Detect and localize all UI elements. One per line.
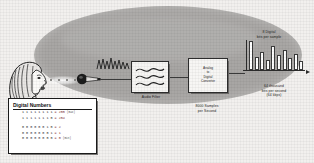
chart-bar (260, 52, 264, 70)
audio-filter-label: Audio Filter (131, 95, 171, 99)
wire-filter-to-adc (170, 77, 188, 78)
decimal-value: = 1 (55, 131, 61, 135)
binary-bits: 1 1 1 1 1 1 1 0 (22, 116, 55, 120)
digital-numbers-rows-bottom: 0 0 0 0 0 0 1 0 = 2 0 0 0 0 0 0 0 1 = 1 … (9, 125, 96, 142)
chart-bar (266, 60, 270, 70)
sound-wave-icon (96, 56, 130, 72)
analog-to-digital-converter-box: Analog to Digital Converter (188, 58, 228, 93)
digital-number-row: 0 0 0 0 0 0 0 0 = 0 (min) (9, 136, 96, 142)
decimal-value: = 255 (55, 110, 67, 114)
chart-bar (283, 50, 287, 70)
ellipse-highlight (60, 16, 260, 62)
value-note: (max) (67, 111, 75, 114)
chart-bar (288, 58, 292, 70)
diagram-canvas: Audio Filter Analog to Digital Converter… (0, 0, 314, 163)
chart-bar (271, 46, 275, 70)
chart-bar (299, 61, 303, 70)
sound-emission (46, 76, 80, 85)
value-note: (min) (63, 137, 71, 140)
decimal-value: = 2 (55, 125, 61, 129)
sampling-rate-line2: per Second (184, 109, 230, 113)
chart-bar (255, 57, 259, 70)
binary-bits: 0 0 0 0 0 0 0 0 (22, 136, 55, 140)
digital-bitstream-chart (243, 40, 309, 78)
decimal-value: = 254 (55, 116, 65, 120)
binary-bits: 0 0 0 0 0 0 1 0 (22, 125, 55, 129)
chart-y-axis (246, 40, 247, 71)
digital-numbers-title: Digital Numbers (9, 99, 96, 108)
binary-bits: 1 1 1 1 1 1 1 1 (22, 110, 55, 114)
chart-axis-arrow-icon (306, 70, 310, 74)
digital-numbers-panel: Digital Numbers 1 1 1 1 1 1 1 1 = 255 (m… (8, 98, 97, 154)
chart-bar (277, 55, 281, 70)
adc-label-line4: Converter (189, 79, 227, 83)
binary-bits: 0 0 0 0 0 0 0 1 (22, 131, 55, 135)
bits-per-sample-line2: bits per sample (246, 35, 292, 39)
digital-numbers-rows-top: 1 1 1 1 1 1 1 1 = 255 (max)1 1 1 1 1 1 1… (9, 110, 96, 121)
chart-bar (249, 41, 253, 70)
wire-mic-to-filter (100, 79, 131, 80)
decimal-value: = 0 (55, 136, 63, 140)
microphone-icon (76, 72, 102, 86)
chart-baseline-axis (243, 70, 305, 71)
bitrate-line3: (64 kbps) (248, 93, 300, 97)
chart-bar (294, 54, 298, 71)
audio-filter-box (131, 61, 169, 93)
